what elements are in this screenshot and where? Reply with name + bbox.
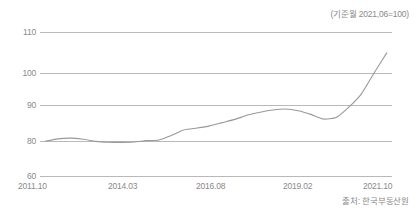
x-tick-label-1: 2011.10 [18,181,47,191]
base-month-note: (기준월 2021,06=100) [331,7,410,19]
housing-price-index-chart: (기준월 2021,06=100) 110 100 90 80 60 2011.… [0,0,418,213]
y-tick-label-60: 60 [6,171,36,181]
plot-area [40,26,392,178]
x-tick-label-4: 2019.02 [283,181,312,191]
y-tick-label-100: 100 [6,68,36,78]
y-tick-label-90: 90 [6,100,36,110]
source-note: 출처: 한국부동산원 [342,194,409,206]
x-tick-label-2: 2014.03 [108,181,137,191]
y-tick-label-80: 80 [6,136,36,146]
series-path-index [45,53,386,142]
x-tick-label-3: 2016.08 [196,181,225,191]
series-line-svg [40,26,392,178]
x-tick-label-5: 2021.10 [363,181,392,191]
y-tick-label-110: 110 [6,27,36,37]
